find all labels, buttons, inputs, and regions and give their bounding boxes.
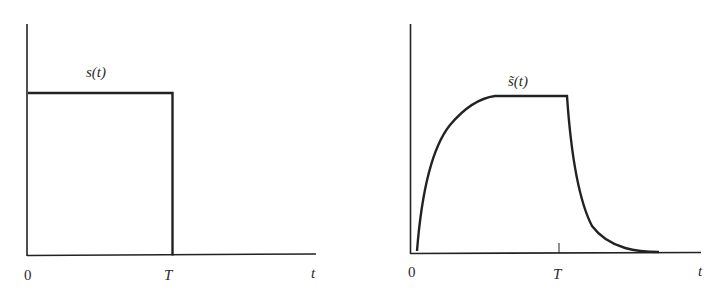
right-signal-label: s̃(t) [508, 73, 528, 90]
right-origin-label: 0 [408, 264, 416, 280]
rectangular-pulse [28, 93, 173, 256]
right-T-label: T [553, 266, 563, 282]
right-plot: s̃(t) 0 T t [408, 24, 703, 282]
left-plot: s(t) 0 T t [24, 24, 316, 283]
right-t-axis-label: t [698, 263, 703, 279]
pulse-diagram: s(t) 0 T t s̃(t) 0 T t [0, 0, 722, 297]
filtered-pulse-curve [417, 96, 659, 252]
left-origin-label: 0 [24, 267, 32, 283]
left-signal-label: s(t) [86, 64, 106, 81]
left-T-label: T [164, 267, 174, 283]
left-t-axis-label: t [311, 265, 316, 281]
